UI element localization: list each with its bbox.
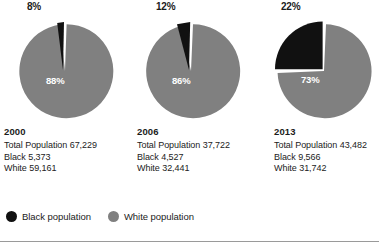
pie-2013-svg bbox=[261, 14, 379, 128]
caption-2006-year: 2006 bbox=[137, 126, 230, 137]
pie-2000-white-pct: 88% bbox=[46, 75, 64, 86]
pie-2013-black-slice bbox=[275, 22, 323, 70]
caption-row: 2000 Total Population 67,229 Black 5,373… bbox=[0, 126, 379, 192]
pie-2006-svg bbox=[128, 14, 254, 128]
caption-2006-white: White 32,441 bbox=[137, 163, 230, 175]
legend-label-black-population: Black population bbox=[22, 211, 91, 222]
caption-2000: 2000 Total Population 67,229 Black 5,373… bbox=[4, 126, 97, 175]
caption-2000-total: Total Population 67,229 bbox=[4, 140, 97, 152]
caption-2013: 2013 Total Population 43,482 Black 9,566… bbox=[274, 126, 367, 175]
chart-legend: Black population White population bbox=[6, 211, 194, 222]
pie-chart-2013: 22% 73% bbox=[261, 0, 379, 128]
caption-2013-year: 2013 bbox=[274, 126, 367, 137]
pie-2000-svg bbox=[2, 14, 128, 128]
population-pie-chart-figure: 8% 88% 12% 86% 22% 73% 2000 Total Popula… bbox=[0, 0, 379, 242]
caption-2006-black: Black 4,527 bbox=[137, 152, 230, 164]
pie-2000-white-slice bbox=[19, 24, 113, 118]
legend-swatch-circle-icon bbox=[108, 211, 119, 222]
pie-chart-row: 8% 88% 12% 86% 22% 73% bbox=[0, 0, 379, 128]
pie-2013-white-pct: 73% bbox=[301, 74, 319, 85]
caption-2000-white: White 59,161 bbox=[4, 163, 97, 175]
legend-item-black-population: Black population bbox=[6, 211, 91, 222]
pie-2006-white-slice bbox=[146, 24, 240, 118]
caption-2006: 2006 Total Population 37,722 Black 4,527… bbox=[137, 126, 230, 175]
pie-2006-black-pct: 12% bbox=[156, 1, 175, 12]
caption-2013-black: Black 9,566 bbox=[274, 152, 367, 164]
caption-2000-black: Black 5,373 bbox=[4, 152, 97, 164]
legend-swatch-circle-icon bbox=[6, 211, 17, 222]
pie-chart-2000: 8% 88% bbox=[2, 0, 128, 128]
caption-2000-year: 2000 bbox=[4, 126, 97, 137]
caption-2013-total: Total Population 43,482 bbox=[274, 140, 367, 152]
caption-2013-white: White 31,742 bbox=[274, 163, 367, 175]
pie-2000-black-pct: 8% bbox=[27, 1, 41, 12]
legend-item-white-population: White population bbox=[108, 211, 194, 222]
pie-2013-black-pct: 22% bbox=[281, 1, 300, 12]
pie-chart-2006: 12% 86% bbox=[128, 0, 254, 128]
legend-label-white-population: White population bbox=[124, 211, 194, 222]
pie-2006-white-pct: 86% bbox=[172, 75, 190, 86]
caption-2006-total: Total Population 37,722 bbox=[137, 140, 230, 152]
